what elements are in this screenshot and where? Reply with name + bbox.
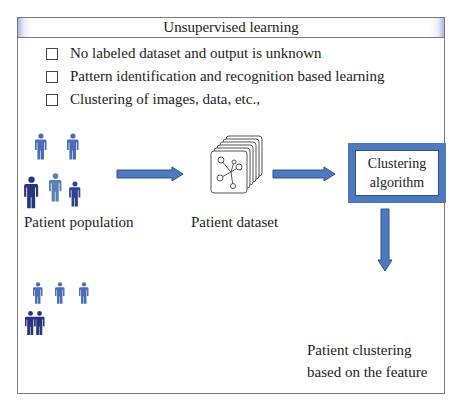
checkbox-icon <box>46 71 58 83</box>
population-label: Patient population <box>24 214 134 231</box>
feature-item: Clustering of images, data, etc., <box>46 88 384 111</box>
person-icon <box>69 181 81 208</box>
arrow-right-icon <box>116 166 184 182</box>
arrow-right-icon <box>272 166 336 182</box>
person-icon <box>24 176 39 210</box>
person-icon <box>34 310 45 337</box>
person-icon <box>33 282 43 305</box>
feature-item: No labeled dataset and output is unknown <box>46 42 384 65</box>
dataset-label: Patient dataset <box>191 214 278 231</box>
person-icon <box>35 133 47 161</box>
feature-item: Pattern identification and recognition b… <box>46 65 384 88</box>
checkbox-icon <box>46 48 58 60</box>
diagram-title: Unsupervised learning <box>17 17 445 38</box>
person-icon <box>49 170 62 206</box>
person-icon <box>79 282 89 305</box>
result-label: Patient clustering based on the feature <box>307 339 427 383</box>
dataset-stack-icon <box>206 134 266 196</box>
arrow-down-icon <box>377 208 393 272</box>
person-icon <box>67 133 79 161</box>
checkbox-icon <box>46 94 58 106</box>
person-icon <box>55 282 65 305</box>
clustering-algorithm-box: Clustering algorithm <box>348 143 446 203</box>
feature-list: No labeled dataset and output is unknown… <box>46 42 384 111</box>
